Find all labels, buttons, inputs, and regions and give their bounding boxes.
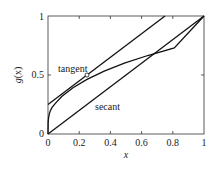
x-tick-label: 0.4: [104, 137, 117, 148]
x-tick-label: 0: [46, 137, 51, 148]
secant-line: [48, 16, 204, 134]
x-tick-label: 0.6: [135, 137, 148, 148]
y-tick-label: 0.5: [32, 69, 45, 80]
x-tick-label: 1: [202, 137, 207, 148]
x-tick-label: 0.8: [167, 137, 180, 148]
y-tick-labels: 0 0.5 1: [32, 11, 45, 139]
y-axis-label: g(x): [12, 67, 24, 84]
x-tick-label: 0.2: [73, 137, 86, 148]
y-tick-label: 1: [39, 11, 44, 22]
x-tick-labels: 0 0.2 0.4 0.6 0.8 1: [46, 137, 207, 148]
chart: 0 0.2 0.4 0.6 0.8 1 0 0.5 1 x g(x) tange…: [0, 0, 213, 171]
secant-label: secant: [95, 101, 120, 112]
x-axis-label: x: [123, 149, 129, 160]
tangent-line: [48, 16, 165, 105]
y-tick-label: 0: [39, 128, 44, 139]
tangent-label: tangent: [58, 63, 88, 74]
